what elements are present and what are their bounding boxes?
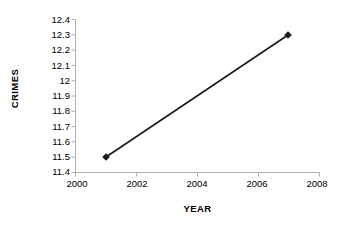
- x-axis-ticks: [76, 173, 320, 177]
- data-series-line: [106, 35, 288, 157]
- chart-container: CRIMES YEAR 12.4 12.3 12.2 12.1 12 11.9 …: [0, 0, 342, 225]
- plot-area: [0, 0, 342, 225]
- y-axis-ticks: [72, 20, 76, 173]
